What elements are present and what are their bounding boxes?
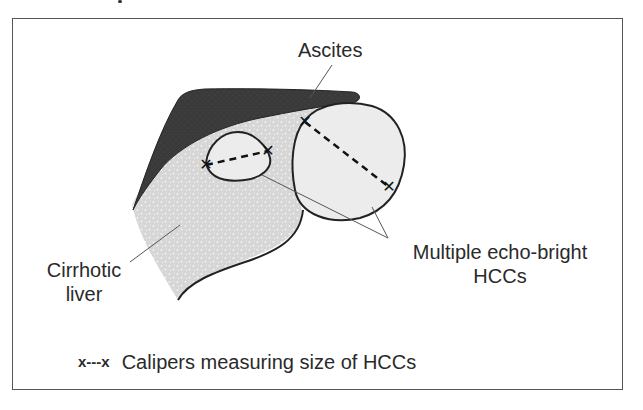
caliper-mark: ✕ — [261, 141, 274, 160]
legend-text: Calipers measuring size of HCCs — [122, 350, 417, 374]
hcc-leader-large — [372, 207, 388, 238]
hccs-label: Multiple echo-bright HCCs — [390, 240, 610, 288]
caliper-mark: ✕ — [199, 155, 212, 174]
cirrhotic-liver-label: Cirrhotic liver — [36, 258, 132, 306]
cirrhotic-liver-label-line1: Cirrhotic — [36, 258, 132, 282]
caliper-mark: ✕ — [382, 177, 395, 196]
caliper-legend-icon: x---x — [78, 350, 110, 374]
hccs-label-line2: HCCs — [390, 264, 610, 288]
hccs-label-line1: Multiple echo-bright — [390, 240, 610, 264]
cirrhotic-liver-label-line2: liver — [36, 282, 132, 306]
caliper-mark: ✕ — [298, 112, 311, 131]
ascites-label: Ascites — [298, 38, 362, 62]
legend: x---x Calipers measuring size of HCCs — [78, 350, 416, 374]
